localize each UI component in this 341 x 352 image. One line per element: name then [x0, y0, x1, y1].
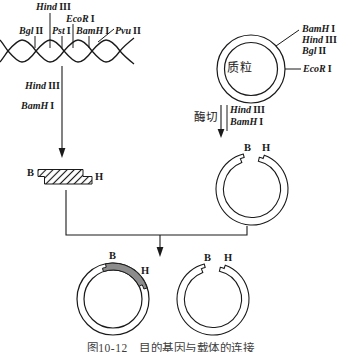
enzyme-name: BamH — [230, 116, 257, 127]
right-digest-enzyme-bamh1: BamHI — [230, 116, 263, 127]
plasmid-site-bamh1: BamHI — [302, 23, 335, 34]
enzyme-name: Bgl — [19, 25, 33, 36]
enzyme-numeral: I — [50, 100, 54, 111]
enzyme-numeral: I — [67, 25, 71, 36]
recombinant-b-end-label: B — [109, 250, 116, 261]
cut-plasmid-h-end-label: H — [262, 142, 270, 153]
recombinant-h-end-label: H — [141, 265, 149, 276]
plasmid-site-leader-lines — [276, 30, 301, 69]
enzyme-name: BamH — [21, 100, 48, 111]
figure-caption: 图10-12 目的基因与载体的连接 — [0, 339, 341, 352]
right-digest-arrow — [218, 105, 227, 138]
dna-helix — [0, 38, 134, 64]
digest-action-label: 酶切 — [194, 111, 218, 124]
gene-ligation-diagram: HindIII EcoRI BglII PstI BamHI PvuII Hin… — [0, 0, 341, 352]
left-digest-enzyme-bamh1: BamHI — [21, 100, 54, 111]
empty-vector-ring — [177, 264, 249, 335]
enzyme-name: Hind — [230, 104, 251, 115]
cut-plasmid-ring — [216, 154, 288, 225]
enzyme-name: Hind — [36, 1, 57, 12]
enzyme-numeral: I — [105, 25, 109, 36]
enzyme-numeral: II — [35, 25, 43, 36]
vector-b-end-label: B — [204, 252, 211, 263]
dna-site-label-hind3: HindIII — [36, 1, 71, 12]
enzyme-numeral: III — [48, 80, 60, 91]
plasmid-site-bgl2: BglII — [302, 45, 326, 56]
enzyme-name: EcoR — [303, 63, 326, 74]
fragment-b-end-label: B — [27, 167, 34, 178]
enzyme-numeral: I — [259, 116, 263, 127]
enzyme-name: Pvu — [115, 25, 131, 36]
enzyme-name: Hind — [302, 34, 323, 45]
enzyme-numeral: III — [325, 34, 337, 45]
enzyme-numeral: II — [318, 45, 326, 56]
plasmid-site-ecor1: EcoRI — [303, 63, 332, 74]
dna-site-label-ecor1: EcoRI — [66, 13, 95, 24]
enzyme-name: BamH — [302, 23, 329, 34]
fragment-h-end-label: H — [95, 171, 103, 182]
enzyme-name: BamH — [76, 25, 103, 36]
enzyme-numeral: II — [133, 25, 141, 36]
enzyme-name: Hind — [25, 80, 46, 91]
left-digest-enzyme-hind3: HindIII — [25, 80, 60, 91]
plasmid-label: 质粒 — [227, 62, 253, 75]
dna-site-label-pst1: PstI — [52, 25, 71, 36]
dna-site-label-bamh1: BamHI — [76, 25, 109, 36]
enzyme-numeral: I — [328, 63, 332, 74]
dna-site-label-bgl2: BglII — [19, 25, 43, 36]
diagram-linework — [0, 0, 341, 352]
cut-plasmid-b-end-label: B — [244, 142, 251, 153]
enzyme-name: Bgl — [302, 45, 316, 56]
vector-h-end-label: H — [224, 252, 232, 263]
enzyme-name: EcoR — [66, 13, 89, 24]
gene-fragment — [38, 170, 92, 185]
dna-site-label-pvu2: PvuII — [115, 25, 141, 36]
enzyme-numeral: III — [253, 104, 265, 115]
enzyme-numeral: I — [331, 23, 335, 34]
plasmid-site-hind3: HindIII — [302, 34, 337, 45]
enzyme-name: Pst — [52, 25, 65, 36]
right-digest-enzyme-hind3: HindIII — [230, 104, 265, 115]
enzyme-numeral: III — [59, 1, 71, 12]
enzyme-numeral: I — [91, 13, 95, 24]
